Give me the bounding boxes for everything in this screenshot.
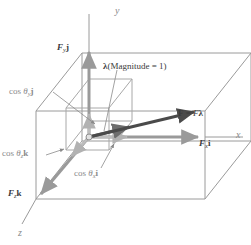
force-vector-diagram: y x z Fyj Fxi Fzk λ(Magnitude = 1) F = F…: [0, 0, 251, 245]
axis-label-z: z: [18, 228, 22, 238]
inner-cube-edge-bl: [66, 121, 89, 150]
label-cos-theta-z-k: cos θzk: [2, 149, 28, 159]
outer-box: [36, 53, 251, 199]
label-fy-j: Fyj: [57, 43, 69, 53]
inner-cube-edge-tl: [66, 79, 89, 108]
axis-label-y: y: [115, 6, 119, 16]
label-fx-i: Fxi: [199, 139, 210, 149]
label-fz-k: Fzk: [8, 189, 22, 199]
outer-box-edge-tl: [36, 53, 82, 111]
axis-label-x: x: [236, 130, 240, 140]
outer-box-edge-br: [205, 141, 251, 199]
leader-cos-theta-x: [101, 144, 114, 168]
origin-point: [86, 134, 92, 140]
label-force-vector: F = Fλ: [178, 109, 203, 118]
label-cos-theta-x-i: cos θxi: [74, 169, 98, 179]
outer-box-front-face: [36, 111, 205, 199]
diagram-canvas: [0, 0, 251, 245]
inner-cube-edge-tr: [109, 79, 132, 108]
component-vectors: [41, 52, 198, 194]
leader-cos-theta-z: [46, 149, 64, 155]
z-axis-line: [22, 199, 36, 224]
label-cos-theta-y-j: cos θyj: [9, 87, 34, 97]
inner-cube: [66, 79, 132, 150]
outer-box-edge-tr: [205, 53, 251, 111]
label-lambda-magnitude: λ(Magnitude = 1): [103, 62, 166, 71]
